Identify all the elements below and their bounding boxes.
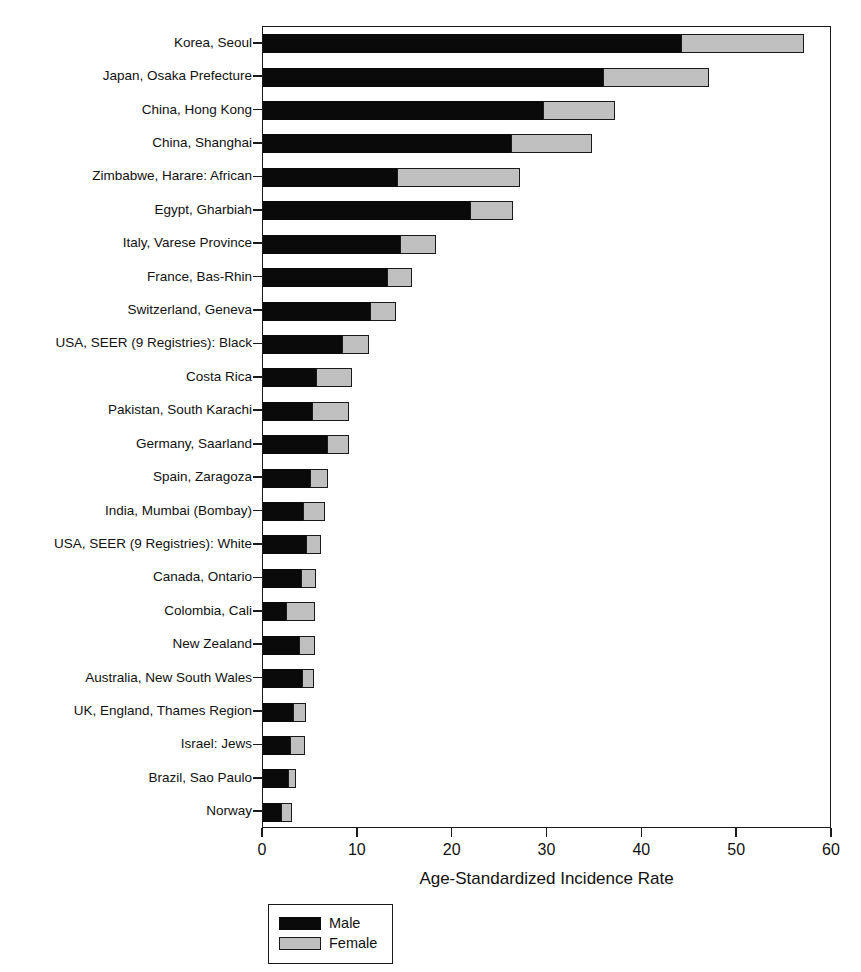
- bar-segment-female: [470, 201, 514, 220]
- y-axis-tick: [253, 677, 262, 679]
- x-axis-tick: [735, 828, 737, 837]
- y-axis-tick: [253, 142, 262, 144]
- bar-segment-male: [263, 34, 681, 53]
- bar-segment-female: [370, 302, 396, 321]
- category-label: Italy, Varese Province: [123, 236, 252, 250]
- category-label: USA, SEER (9 Registries): White: [54, 537, 252, 551]
- bar-segment-female: [603, 68, 709, 87]
- x-axis-tick: [261, 828, 263, 837]
- x-axis-tick-label: 30: [538, 840, 556, 860]
- bar-segment-male: [263, 201, 470, 220]
- y-axis-tick: [253, 744, 262, 746]
- bar-segment-female: [316, 368, 352, 387]
- y-axis-tick: [253, 409, 262, 411]
- legend-label: Female: [329, 936, 377, 951]
- bar-segment-female: [299, 636, 315, 655]
- bar-segment-male: [263, 502, 303, 521]
- bar-segment-female: [301, 569, 316, 588]
- x-axis-tick: [451, 828, 453, 837]
- x-axis-tick-labels: 0102030405060: [0, 840, 861, 862]
- x-axis-title: Age-Standardized Incidence Rate: [262, 869, 831, 889]
- bar-segment-male: [263, 736, 290, 755]
- plot-area: [262, 26, 831, 828]
- x-axis-tick-label: 50: [727, 840, 745, 860]
- x-axis-ticks: [0, 828, 861, 838]
- bar-segment-male: [263, 469, 310, 488]
- bar-segment-male: [263, 402, 312, 421]
- y-axis-tick: [253, 577, 262, 579]
- bar-segment-male: [263, 769, 288, 788]
- bar-segment-male: [263, 703, 293, 722]
- category-label: China, Shanghai: [152, 136, 252, 150]
- x-axis-tick: [356, 828, 358, 837]
- y-axis-tick: [253, 209, 262, 211]
- bar-segment-female: [303, 502, 325, 521]
- bar-segment-male: [263, 68, 603, 87]
- y-axis-tick: [253, 75, 262, 77]
- category-label: Norway: [206, 804, 252, 818]
- bar-segment-female: [290, 736, 305, 755]
- bar-segment-male: [263, 335, 342, 354]
- category-label: Germany, Saarland: [136, 437, 252, 451]
- bar-segment-male: [263, 235, 400, 254]
- bar-segment-female: [286, 602, 315, 621]
- category-label: Canada, Ontario: [153, 570, 252, 584]
- bar-segment-female: [400, 235, 436, 254]
- bar-segment-male: [263, 669, 302, 688]
- category-label: Costa Rica: [186, 370, 252, 384]
- y-axis-tick: [253, 42, 262, 44]
- bar-segment-male: [263, 569, 301, 588]
- category-axis-labels: Korea, SeoulJapan, Osaka PrefectureChina…: [0, 26, 252, 828]
- y-axis-tick: [253, 810, 262, 812]
- category-label: Zimbabwe, Harare: African: [92, 169, 252, 183]
- y-axis-tick: [253, 376, 262, 378]
- x-axis-tick-label: 60: [822, 840, 840, 860]
- bar-segment-male: [263, 368, 316, 387]
- category-label: USA, SEER (9 Registries): Black: [55, 336, 252, 350]
- bar-segment-female: [293, 703, 305, 722]
- x-axis-tick: [641, 828, 643, 837]
- category-label: Japan, Osaka Prefecture: [103, 69, 252, 83]
- y-axis-tick: [253, 242, 262, 244]
- incidence-rate-bar-chart: Korea, SeoulJapan, Osaka PrefectureChina…: [0, 0, 861, 972]
- y-axis-tick: [253, 510, 262, 512]
- category-label: UK, England, Thames Region: [74, 704, 252, 718]
- bar-segment-male: [263, 602, 286, 621]
- x-axis-tick-label: 10: [348, 840, 366, 860]
- chart-legend: MaleFemale: [268, 904, 393, 964]
- bar-segment-female: [327, 435, 349, 454]
- category-label: Israel: Jews: [181, 737, 252, 751]
- legend-label: Male: [329, 916, 360, 931]
- legend-swatch: [279, 937, 321, 950]
- y-axis-tick: [253, 443, 262, 445]
- y-axis-tick: [253, 276, 262, 278]
- y-axis-tick: [253, 476, 262, 478]
- category-label: Spain, Zaragoza: [153, 470, 252, 484]
- y-axis-tick: [253, 543, 262, 545]
- bar-segment-male: [263, 101, 543, 120]
- bar-segment-female: [397, 168, 520, 187]
- bar-segment-female: [387, 268, 412, 287]
- bar-segment-male: [263, 268, 387, 287]
- y-axis-tick: [253, 176, 262, 178]
- bar-segment-male: [263, 803, 281, 822]
- category-label: New Zealand: [172, 637, 252, 651]
- bar-segment-male: [263, 535, 306, 554]
- category-label: China, Hong Kong: [142, 103, 252, 117]
- x-axis-tick-label: 0: [258, 840, 267, 860]
- y-axis-tick: [253, 610, 262, 612]
- bar-segment-male: [263, 134, 511, 153]
- bar-segment-male: [263, 435, 327, 454]
- x-axis-tick-label: 20: [443, 840, 461, 860]
- x-axis-tick-label: 40: [632, 840, 650, 860]
- category-label: Australia, New South Wales: [85, 671, 252, 685]
- bar-segment-male: [263, 636, 299, 655]
- bar-segment-female: [342, 335, 370, 354]
- bar-segment-female: [312, 402, 349, 421]
- bar-segment-female: [511, 134, 592, 153]
- category-label: Korea, Seoul: [174, 36, 252, 50]
- bar-segment-male: [263, 302, 370, 321]
- bar-segment-female: [302, 669, 314, 688]
- y-axis-tick: [253, 309, 262, 311]
- y-axis-tick: [253, 643, 262, 645]
